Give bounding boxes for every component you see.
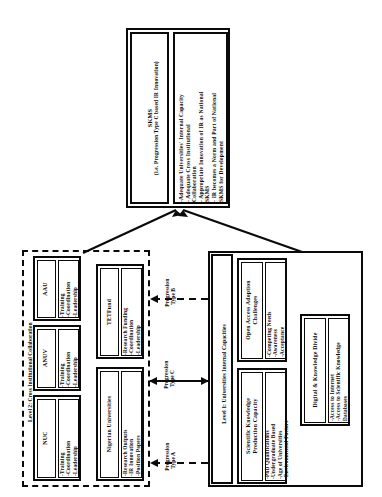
node-scientific-knowledge-title: Scientific Knowledge Production Capacity: [245, 373, 259, 479]
node-anuv: ANUV -Training -Coordination -Leadership: [33, 325, 81, 391]
node-open-access: Open Access Adoption Challenges -Competi…: [237, 258, 287, 362]
node-nuc-items: -Training -Coordination -Leadership: [59, 400, 78, 476]
skms-node: SKMS (i.e. Progression Type C based IR I…: [126, 28, 230, 208]
level-1-label-cell: Level 1: Universities Internal Capacitie…: [211, 254, 233, 484]
node-digital-divide: Digital & Knowledge Divide -Access to In…: [300, 314, 350, 426]
skms-subtitle: (i.e. Progression Type C based IR Innova…: [153, 34, 159, 202]
node-tetfund-title: TETFund: [106, 269, 113, 355]
skms-bullets-cell: -Adequate Universities' Internal Capacit…: [173, 32, 228, 204]
node-tetfund-title-cell: TETFund: [100, 268, 119, 356]
node-nigerian-universities: Nigerian Universities -Research Outputs …: [96, 367, 144, 481]
node-nuc-title: NUC: [42, 400, 49, 476]
node-aau-items: -Training -Coordination -Leadership: [59, 261, 78, 317]
node-nuc-items-cell: -Training -Coordination -Leadership: [58, 399, 79, 478]
diagram-canvas: SKMS (i.e. Progression Type C based IR I…: [0, 0, 382, 497]
node-nigerian-universities-title: Nigerian Universities: [106, 372, 113, 476]
level-1-label: Level 1: Universities Internal Capacitie…: [214, 274, 235, 482]
node-nigerian-universities-items-cell: -Research Outputs -IR Innovation -Positi…: [121, 371, 142, 478]
node-open-access-title: Open Access Adoption Challenges: [245, 263, 259, 357]
skms-header-cell: SKMS (i.e. Progression Type C based IR I…: [130, 32, 169, 204]
node-open-access-title-cell: Open Access Adoption Challenges: [241, 262, 263, 359]
node-nuc: NUC -Training -Coordination -Leadership: [33, 395, 81, 481]
node-aau-title: AAU: [42, 261, 49, 317]
node-digital-divide-title-cell: Digital & Knowledge Divide: [304, 318, 326, 423]
node-anuv-title-cell: ANUV: [37, 329, 56, 388]
node-digital-divide-items-cell: -Access to Internet -Access to Scientifi…: [328, 318, 349, 423]
node-tetfund-items-cell: -Research Funding -Coordination -Leaders…: [121, 268, 142, 356]
node-aau: AAU -Training -Coordination -Leadership: [33, 256, 81, 321]
node-anuv-title: ANUV: [42, 329, 49, 387]
node-digital-divide-title: Digital & Knowledge Divide: [311, 319, 318, 421]
node-tetfund-items: -Research Funding -Coordination -Leaders…: [122, 269, 141, 355]
node-open-access-items-cell: -Competing Needs -Awareness -Acceptance: [265, 262, 286, 359]
node-scientific-knowledge-title-cell: Scientific Knowledge Production Capacity: [241, 372, 263, 481]
node-scientific-knowledge-items-cell: -PhD Qualifications -Undergraduate Based…: [265, 372, 286, 481]
node-tetfund: TETFund -Research Funding -Coordination …: [96, 264, 144, 359]
node-nigerian-universities-items: -Research Outputs -IR Innovation -Positi…: [122, 372, 141, 476]
node-anuv-items: -Training -Coordination -Leadership: [59, 329, 78, 387]
node-scientific-knowledge: Scientific Knowledge Production Capacity…: [237, 368, 287, 484]
node-open-access-items: -Competing Needs -Awareness -Acceptance: [266, 263, 285, 357]
node-nigerian-universities-title-cell: Nigerian Universities: [100, 371, 119, 478]
skms-bullets: -Adequate Universities' Internal Capacit…: [177, 34, 223, 202]
node-digital-divide-items: -Access to Internet -Access to Scientifi…: [329, 319, 348, 421]
progression-type-a-label: Progression Type A: [157, 444, 184, 476]
node-nuc-title-cell: NUC: [37, 399, 56, 478]
progression-type-b-label: Progression Type B: [157, 280, 184, 312]
node-aau-title-cell: AAU: [37, 260, 56, 318]
node-aau-items-cell: -Training -Coordination -Leadership: [58, 260, 79, 318]
node-anuv-items-cell: -Training -Coordination -Leadership: [58, 329, 79, 388]
progression-type-c-label: Progression Type C: [156, 362, 183, 394]
node-scientific-knowledge-items: -PhD Qualifications -Undergraduate Based…: [263, 373, 288, 479]
